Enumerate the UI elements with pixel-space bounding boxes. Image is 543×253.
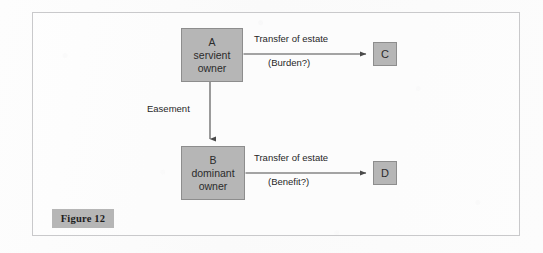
edge-a-to-b-label: Easement: [147, 103, 190, 115]
node-b-line-1: B: [209, 154, 216, 167]
node-a-line-1: A: [208, 36, 215, 49]
node-a-line-2: servient: [194, 49, 231, 62]
edge-a-to-c-label-above: Transfer of estate: [254, 33, 328, 45]
edge-a-to-c-label-below: (Burden?): [268, 57, 310, 69]
node-a-line-3: owner: [198, 62, 227, 75]
edge-b-to-d-label-above: Transfer of estate: [254, 152, 328, 164]
figure-caption: Figure 12: [52, 209, 114, 228]
node-c[interactable]: C: [373, 42, 397, 66]
node-d-label: D: [381, 167, 389, 180]
node-a-servient-owner[interactable]: A servient owner: [181, 28, 243, 82]
node-b-line-2: dominant: [191, 167, 234, 180]
node-b-line-3: owner: [199, 180, 228, 193]
node-b-dominant-owner[interactable]: B dominant owner: [181, 146, 245, 200]
figure-page: A servient owner B dominant owner C D Tr…: [0, 0, 543, 253]
edge-b-to-d-label-below: (Benefit?): [268, 176, 309, 188]
figure-frame: [32, 12, 520, 236]
node-d[interactable]: D: [373, 161, 397, 185]
node-c-label: C: [381, 48, 389, 61]
